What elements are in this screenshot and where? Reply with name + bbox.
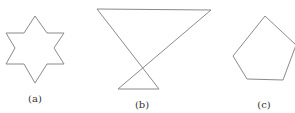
pentagon-figure-c (233, 16, 295, 80)
figures-canvas (0, 0, 295, 113)
figure-label-c: (c) (257, 100, 270, 110)
crossed-quadrilateral-figure-b (97, 9, 211, 89)
figure-label-a: (a) (28, 94, 42, 104)
figure-label-b: (b) (135, 100, 149, 110)
star-figure-a (6, 16, 64, 83)
